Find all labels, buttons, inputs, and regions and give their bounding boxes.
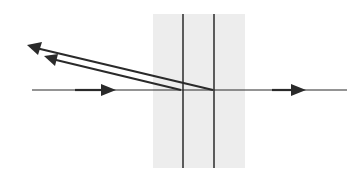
diagram-svg [0, 0, 362, 180]
film-region [153, 14, 245, 168]
reflected-front-arrow-icon [44, 54, 58, 66]
transmitted-arrow-icon [291, 84, 306, 96]
incident-arrow-icon [101, 84, 116, 96]
thin-film-diagram [0, 0, 362, 180]
reflected-back-arrow-icon [27, 42, 42, 55]
